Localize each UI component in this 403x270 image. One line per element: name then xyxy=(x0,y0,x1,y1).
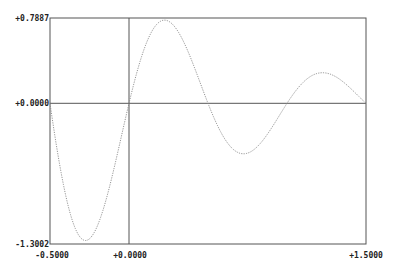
x-tick-right: +1.5000 xyxy=(349,251,383,260)
y-tick-top: +0.7887 xyxy=(15,14,49,23)
x-tick-zero: +0.0000 xyxy=(113,251,147,260)
x-tick-left: -0.5000 xyxy=(35,251,69,260)
y-tick-bottom: -1.3002 xyxy=(15,240,49,249)
data-curve xyxy=(50,20,366,240)
line-chart: +0.7887 +0.0000 -1.3002 -0.5000 +0.0000 … xyxy=(0,0,403,270)
y-tick-zero: +0.0000 xyxy=(15,99,49,108)
plot-frame xyxy=(50,18,366,244)
